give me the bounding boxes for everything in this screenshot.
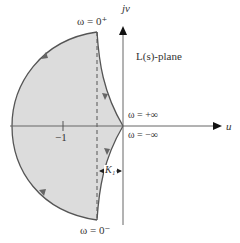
jv-axis-label: jv bbox=[122, 3, 130, 14]
nyquist-diagram bbox=[0, 0, 240, 243]
plane-label: L(s)-plane bbox=[136, 51, 182, 62]
omega-plus-inf-label: ω = +∞ bbox=[128, 110, 158, 120]
tick-label-minus-one: −1 bbox=[55, 132, 67, 143]
omega-0-plus-label: ω = 0⁺ bbox=[77, 16, 107, 27]
omega-0-minus-label: ω = 0⁻ bbox=[80, 225, 110, 236]
jv-axis-arrow-icon bbox=[119, 26, 127, 35]
u-axis-arrow-icon bbox=[213, 122, 222, 130]
omega-minus-inf-label: ω = −∞ bbox=[128, 130, 158, 140]
k1-label: K₁ bbox=[104, 165, 116, 175]
u-axis-label: u bbox=[226, 121, 232, 132]
